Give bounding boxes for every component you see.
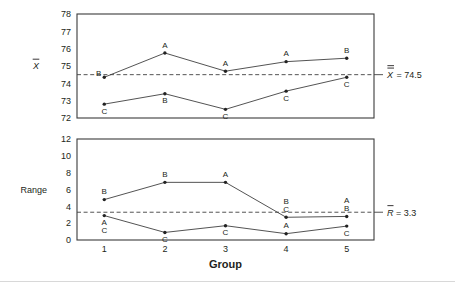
- range-chart-center-line-value: = 3.3: [396, 208, 416, 218]
- range-chart-label-upper-2-B: B: [162, 170, 167, 179]
- xtick-3: 3: [223, 244, 228, 254]
- range-chart-point-upper-1: [103, 198, 106, 201]
- range-chart-label-lower-3-C: C: [223, 228, 229, 237]
- range-chart-ytick-8: 8: [66, 168, 71, 178]
- xtick-4: 4: [284, 244, 289, 254]
- xbar-chart-point-upper-1: [103, 76, 106, 79]
- range-chart-label-upper-4-C: C: [283, 205, 289, 214]
- xbar-chart-label-lower-5-C: C: [344, 80, 350, 89]
- x-axis-title: Group: [209, 258, 242, 270]
- xbar-chart-label-lower-1-C: C: [101, 107, 107, 116]
- range-chart-point-upper-3: [224, 181, 227, 184]
- xbar-chart-ytick-76: 76: [61, 44, 71, 54]
- xbar-chart-label-upper-3-A: A: [223, 59, 229, 68]
- xbar-chart-label-lower-2-B: B: [162, 96, 167, 105]
- range-chart-label-lower-1-C: C: [101, 226, 107, 235]
- xbar-chart-ytick-73: 73: [61, 96, 71, 106]
- xbar-chart-point-upper-4: [284, 60, 287, 63]
- xbar-chart-ytick-74: 74: [61, 79, 71, 89]
- xbar-chart-point-upper-3: [224, 70, 227, 73]
- xtick-5: 5: [344, 244, 349, 254]
- xbar-axis-title-group: X: [32, 59, 40, 71]
- xtick-1: 1: [102, 244, 107, 254]
- range-chart-label-upper-5-B: B: [344, 204, 349, 213]
- range-chart-ytick-6: 6: [66, 185, 71, 195]
- range-chart-ytick-2: 2: [66, 218, 71, 228]
- xbar-chart-point-upper-2: [163, 51, 166, 54]
- control-chart-svg: 72737475767778X= 74.5BAAABCBCCC024681012…: [0, 0, 455, 284]
- range-chart-point-lower-2: [163, 231, 166, 234]
- range-chart-label-upper-1-B: B: [102, 187, 107, 196]
- xbar-chart-point-lower-5: [345, 76, 348, 79]
- xbar-chart-point-lower-1: [103, 102, 106, 105]
- x-axis-group: 12345Group: [102, 244, 349, 270]
- xbar-chart-label-lower-4-C: C: [283, 94, 289, 103]
- range-chart-point-upper-4: [284, 216, 287, 219]
- xbar-chart-center-line-symbol: X: [386, 70, 394, 80]
- range-chart-ytick-12: 12: [61, 134, 71, 144]
- xbar-chart-point-lower-3: [224, 108, 227, 111]
- range-chart-point-lower-3: [224, 224, 227, 227]
- xbar-chart-ytick-77: 77: [61, 27, 71, 37]
- range-chart: 024681012R= 3.3BBABCABACCCAC: [61, 134, 416, 245]
- xbar-chart-label-upper-1-B: B: [96, 69, 101, 78]
- xbar-axis-title: X: [32, 61, 40, 71]
- range-chart-point-lower-1: [103, 214, 106, 217]
- xbar-chart-ytick-78: 78: [61, 9, 71, 19]
- range-chart-point-lower-5: [345, 224, 348, 227]
- range-chart-point-upper-5: [345, 215, 348, 218]
- range-chart-ytick-10: 10: [61, 151, 71, 161]
- xbar-chart-point-lower-4: [284, 89, 287, 92]
- xbar-chart-point-lower-2: [163, 92, 166, 95]
- range-axis-title: Range: [20, 185, 47, 195]
- range-chart-ytick-4: 4: [66, 202, 71, 212]
- range-chart-ytick-0: 0: [66, 235, 71, 245]
- xbar-chart-point-upper-5: [345, 57, 348, 60]
- xbar-chart: 72737475767778X= 74.5BAAABCBCCC: [61, 9, 422, 123]
- xbar-chart-ytick-72: 72: [61, 113, 71, 123]
- range-chart-label-upper-3-A: A: [223, 170, 229, 179]
- range-chart-label-lower-5-C: C: [344, 229, 350, 238]
- xbar-chart-label-upper-4-A: A: [283, 49, 289, 58]
- range-chart-label-lower-2-C: C: [162, 235, 168, 244]
- range-chart-point-lower-4: [284, 232, 287, 235]
- xtick-2: 2: [162, 244, 167, 254]
- range-chart-center-line-symbol: R: [387, 208, 394, 218]
- xbar-chart-series-lower-line: [104, 77, 346, 109]
- range-chart-point-upper-2: [163, 181, 166, 184]
- control-chart-figure: 72737475767778X= 74.5BAAABCBCCC024681012…: [0, 0, 455, 284]
- xbar-chart-ytick-75: 75: [61, 61, 71, 71]
- xbar-chart-label-upper-5-B: B: [344, 46, 349, 55]
- xbar-chart-center-line-value: = 74.5: [397, 70, 422, 80]
- xbar-chart-label-lower-3-C: C: [223, 112, 229, 121]
- xbar-chart-label-upper-2-A: A: [162, 41, 168, 50]
- range-chart-label-lower-4-A: A: [283, 221, 289, 230]
